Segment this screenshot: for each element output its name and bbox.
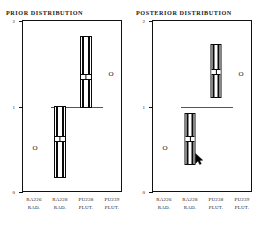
- box-edge-left: [56, 107, 58, 177]
- y-tick-label-prior-0: 0: [13, 190, 16, 195]
- box-median-marker: [212, 69, 221, 75]
- y-tick-label-posterior-1: 1: [143, 105, 146, 110]
- x-label-prior-2: PU238 PLUT.: [79, 196, 94, 211]
- x-label-line2: PLUT.: [209, 204, 224, 212]
- y-tick-label-prior-2: 2: [13, 19, 16, 24]
- panel-title-prior: PRIOR DISTRIBUTION: [0, 9, 130, 16]
- panel-prior: PRIOR DISTRIBUTION 2 1 0 O: [0, 0, 130, 231]
- x-label-line2: RAD.: [26, 204, 41, 212]
- box-median-marker: [81, 74, 91, 80]
- y-tick-posterior-1: 1: [149, 107, 153, 108]
- x-label-prior-0: RA226 RAD.: [26, 196, 41, 211]
- x-label-line1: RA228: [52, 197, 67, 202]
- x-label-prior-3: PU239 PLUT.: [105, 196, 120, 211]
- box-median-marker: [55, 136, 65, 142]
- point-marker-posterior-pu239: O: [238, 71, 243, 78]
- y-tick-label-posterior-0: 0: [143, 190, 146, 195]
- x-label-posterior-3: PU239 PLUT.: [235, 196, 250, 211]
- x-label-line2: PLUT.: [105, 204, 120, 212]
- x-label-line1: RA226: [26, 197, 41, 202]
- x-label-prior-1: RA228 RAD.: [52, 196, 67, 211]
- y-tick-label-prior-1: 1: [13, 105, 16, 110]
- box-edge-right: [88, 37, 90, 107]
- x-label-line1: PU239: [235, 197, 250, 202]
- interval-box-prior-ra228: [54, 106, 66, 178]
- interval-box-posterior-pu238: [211, 44, 222, 98]
- figure-root: PRIOR DISTRIBUTION 2 1 0 O: [0, 0, 257, 231]
- x-axis-labels-posterior: RA226 RAD. RA228 RAD. PU238 PLUT. PU239 …: [152, 196, 252, 224]
- panel-posterior: POSTERIOR DISTRIBUTION 2 1 0 O: [128, 0, 257, 231]
- point-marker-prior-pu239: O: [108, 71, 113, 78]
- y-tick-label-posterior-2: 2: [143, 19, 146, 24]
- interval-box-prior-pu238: [80, 36, 92, 108]
- y-tick-prior-0: 0: [19, 192, 23, 193]
- x-label-line2: RAD.: [156, 204, 171, 212]
- plot-frame-prior: 2 1 0 O: [22, 20, 122, 192]
- plot-frame-posterior: 2 1 0 O: [152, 20, 252, 192]
- x-label-posterior-0: RA226 RAD.: [156, 196, 171, 211]
- x-label-line2: PLUT.: [79, 204, 94, 212]
- box-edge-right: [62, 107, 64, 177]
- point-marker-posterior-ra226: O: [162, 145, 167, 152]
- panel-title-posterior: POSTERIOR DISTRIBUTION: [128, 9, 257, 16]
- box-edge-left: [82, 37, 84, 107]
- x-label-line2: RAD.: [52, 204, 67, 212]
- x-label-posterior-2: PU238 PLUT.: [209, 196, 224, 211]
- y-tick-posterior-2: 2: [149, 21, 153, 22]
- point-marker-prior-ra226: O: [32, 145, 37, 152]
- x-label-line1: RA228: [182, 197, 197, 202]
- box-median-marker: [186, 136, 195, 142]
- y-tick-posterior-0: 0: [149, 192, 153, 193]
- y-tick-prior-1: 1: [19, 107, 23, 108]
- x-label-line1: PU238: [209, 197, 224, 202]
- x-label-line1: PU238: [79, 197, 94, 202]
- x-axis-labels-prior: RA226 RAD. RA228 RAD. PU238 PLUT. PU239 …: [22, 196, 122, 224]
- x-label-line1: PU239: [105, 197, 120, 202]
- x-label-posterior-1: RA228 RAD.: [182, 196, 197, 211]
- y-tick-prior-2: 2: [19, 21, 23, 22]
- x-label-line2: RAD.: [182, 204, 197, 212]
- reference-line-posterior: [181, 107, 233, 108]
- x-label-line2: PLUT.: [235, 204, 250, 212]
- interval-box-posterior-ra228: [185, 113, 196, 165]
- x-label-line1: RA226: [156, 197, 171, 202]
- mouse-cursor-icon: [195, 151, 204, 163]
